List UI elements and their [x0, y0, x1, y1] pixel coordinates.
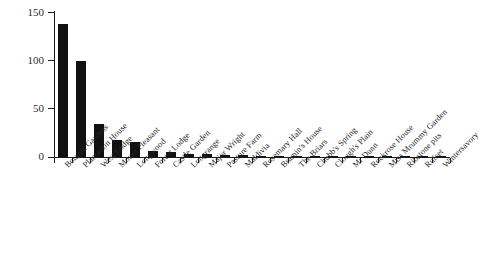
y-axis-label-150: 150 — [4, 7, 44, 18]
y-axis-label-50: 50 — [4, 103, 44, 114]
bar — [58, 24, 67, 157]
y-axis-label-100: 100 — [4, 55, 44, 66]
x-axis-tick — [54, 158, 55, 163]
y-axis-label-0: 0 — [4, 151, 44, 162]
